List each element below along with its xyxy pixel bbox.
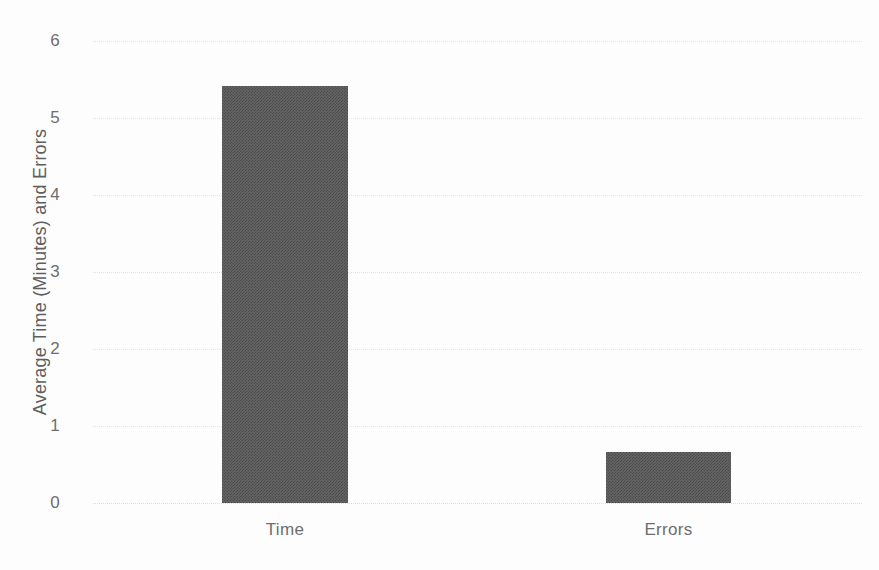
x-tick-label-errors: Errors bbox=[606, 520, 731, 540]
gridline-4 bbox=[93, 195, 862, 196]
y-tick-label-3: 3 bbox=[20, 262, 60, 282]
bar-chart: Average Time (Minutes) and Errors 6 5 4 … bbox=[0, 0, 879, 570]
y-tick-label-0: 0 bbox=[20, 493, 60, 513]
x-tick-label-time: Time bbox=[222, 520, 348, 540]
gridline-2 bbox=[93, 349, 862, 350]
gridline-6 bbox=[93, 41, 862, 42]
y-tick-label-1: 1 bbox=[20, 416, 60, 436]
bar-time bbox=[222, 86, 348, 503]
y-tick-label-2: 2 bbox=[20, 339, 60, 359]
gridline-1 bbox=[93, 426, 862, 427]
y-tick-label-5: 5 bbox=[20, 108, 60, 128]
gridline-3 bbox=[93, 272, 862, 273]
y-tick-label-4: 4 bbox=[20, 185, 60, 205]
bar-errors bbox=[606, 452, 731, 503]
plot-area bbox=[93, 41, 862, 503]
gridline-5 bbox=[93, 118, 862, 119]
y-tick-label-6: 6 bbox=[20, 31, 60, 51]
gridline-0 bbox=[93, 503, 862, 504]
